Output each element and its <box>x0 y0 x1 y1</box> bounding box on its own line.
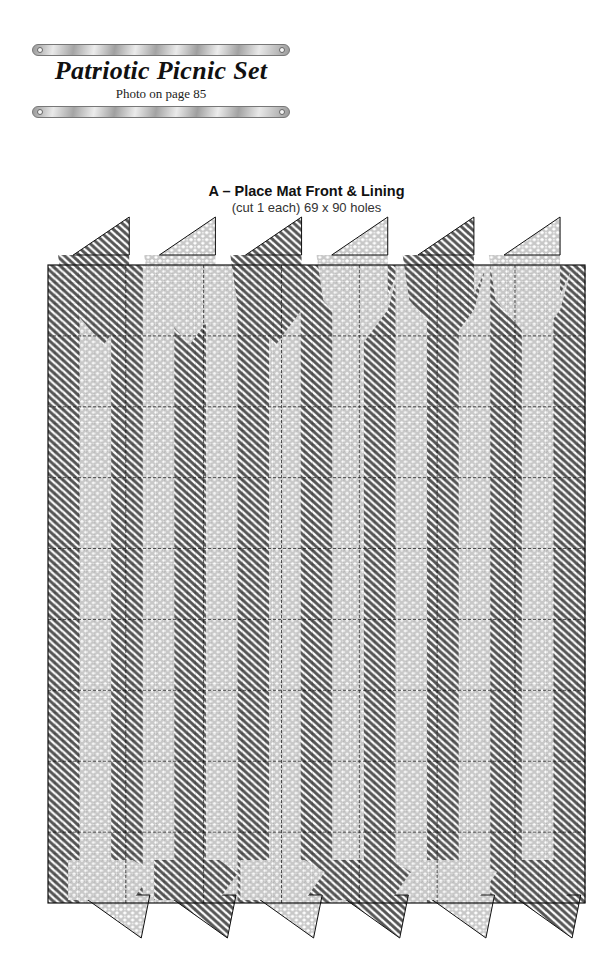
arrow-tip <box>159 217 215 255</box>
arrow-tip <box>418 217 474 255</box>
pattern-grid <box>48 217 586 938</box>
arrow-tip <box>332 217 388 255</box>
arrow-tip <box>504 217 560 255</box>
grid-frame <box>48 265 585 903</box>
arrow-tip <box>73 217 129 255</box>
stitch-chart <box>0 0 613 977</box>
arrow-tip <box>246 217 302 255</box>
